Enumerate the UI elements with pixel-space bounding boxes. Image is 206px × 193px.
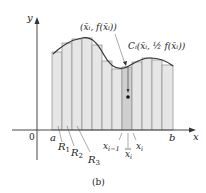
x-axis-label: x: [193, 131, 199, 142]
interval-start-label: a: [50, 132, 56, 143]
top-point-pointer: [115, 34, 125, 64]
top-point-label: (x̄ᵢ, f(x̄ᵢ)): [80, 22, 117, 32]
centroid-point: [126, 95, 130, 99]
approximating-rectangles: [52, 38, 173, 130]
x-bar-i-label: xi: [125, 149, 132, 161]
r1-label: R1: [57, 141, 70, 154]
xi-1-pointer: [119, 133, 122, 140]
highlighted-strip: [122, 67, 132, 130]
x-i-minus-1-label: xi−1: [103, 141, 120, 153]
y-axis-arrow-icon: [35, 17, 40, 24]
interval-end-label: b: [169, 132, 175, 143]
x-i-label: xi: [136, 141, 143, 153]
figure-caption: (b): [92, 177, 105, 187]
r2-label: R2: [70, 147, 83, 160]
centroid-diagram: y x 0 a b R1 R2 R3 xi−1 xi xi (x̄ᵢ, f(x̄…: [0, 0, 206, 193]
xi-pointer: [133, 133, 136, 140]
r3-label: R3: [87, 154, 100, 167]
origin-label: 0: [29, 132, 35, 142]
top-point-arrow-icon: [123, 61, 127, 66]
y-axis-label: y: [26, 12, 33, 23]
centroid-label: Cᵢ(x̄ᵢ, ½ f(x̄ᵢ)): [128, 41, 186, 51]
